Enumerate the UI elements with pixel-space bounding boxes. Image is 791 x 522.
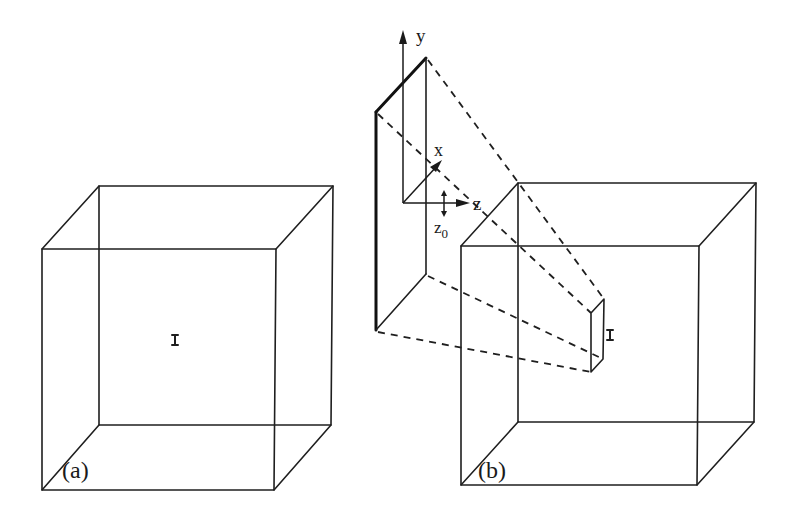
panel-b-magnified-slab	[376, 58, 426, 330]
slab-top-edge	[376, 58, 426, 112]
cube-a-edge-tr	[276, 186, 333, 249]
cube-a-back-face	[99, 186, 333, 425]
z0-up-arrow-icon	[441, 190, 447, 196]
panel-b-marker-icon	[607, 330, 613, 340]
cube-b-edge-br	[697, 422, 754, 485]
y-axis-label: y	[416, 25, 426, 46]
panel-a-cube: (a)	[42, 186, 333, 490]
z-arrow-icon	[456, 199, 470, 207]
cube-b-front-face	[461, 246, 699, 485]
panel-b-label: (b)	[478, 457, 506, 483]
cube-a-front-face	[42, 249, 276, 490]
x-axis-label: x	[434, 140, 443, 160]
slab-bottom-edge	[376, 274, 426, 330]
x-axis	[403, 166, 437, 203]
z0-label: z0	[434, 218, 448, 241]
projection-lines	[378, 60, 604, 372]
panel-b-cube: (b)	[461, 183, 756, 485]
cube-b-back-face	[518, 183, 756, 422]
x-arrow-icon	[430, 160, 442, 172]
cube-a-edge-br	[274, 425, 331, 490]
z0-down-arrow-icon	[441, 211, 447, 217]
panel-b-small-slab	[591, 299, 613, 372]
cube-a-edge-tl	[42, 186, 99, 249]
panel-a-marker-icon	[172, 335, 178, 345]
coordinate-axes: y z x z0	[399, 25, 481, 241]
figure-canvas: (a) (b) y	[0, 0, 791, 522]
panel-a-label: (a)	[62, 457, 89, 483]
y-arrow-icon	[399, 30, 407, 44]
z-axis-label: z	[473, 193, 481, 214]
cube-b-edge-tr	[699, 183, 756, 246]
cube-b-edge-tl	[461, 183, 518, 246]
